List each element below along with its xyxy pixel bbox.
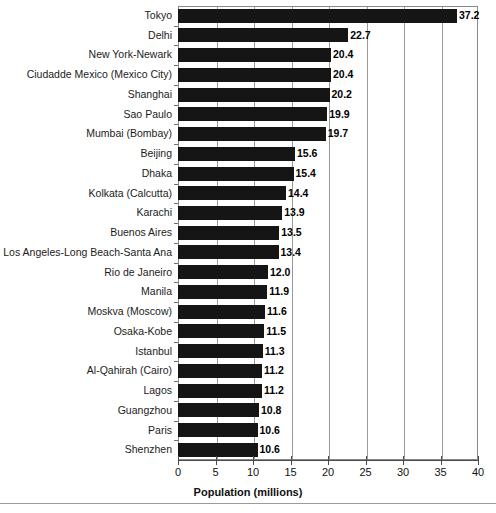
category-label: Manila xyxy=(2,282,174,302)
bar xyxy=(178,9,457,23)
bar xyxy=(178,88,330,102)
bar-value-label: 15.6 xyxy=(297,145,317,162)
bar xyxy=(178,245,279,259)
bar xyxy=(178,384,262,398)
bar-value-label: 20.4 xyxy=(333,66,353,83)
x-axis-tick xyxy=(441,456,442,465)
bar-row: 11.3 xyxy=(178,342,478,362)
x-axis-tick-label: 40 xyxy=(472,466,484,478)
category-label: Sao Paulo xyxy=(2,105,174,125)
footer-divider xyxy=(0,503,496,504)
x-axis-tick xyxy=(178,456,179,465)
bar-value-label: 37.2 xyxy=(459,7,479,24)
category-label: Al-Qahirah (Cairo) xyxy=(2,361,174,381)
category-label: Buenos Aires xyxy=(2,223,174,243)
x-axis-tick-label: 30 xyxy=(397,466,409,478)
bar-row: 37.2 xyxy=(178,6,478,26)
category-label: Lagos xyxy=(2,381,174,401)
x-axis-tick-label: 25 xyxy=(359,466,371,478)
bar xyxy=(178,226,279,240)
bar-row: 10.6 xyxy=(178,421,478,441)
category-label: Istanbul xyxy=(2,342,174,362)
bar xyxy=(178,403,259,417)
bar-row: 15.6 xyxy=(178,144,478,164)
bar-value-label: 13.5 xyxy=(281,224,301,241)
bar-row: 11.2 xyxy=(178,381,478,401)
category-label: Kolkata (Calcutta) xyxy=(2,184,174,204)
bar-row: 11.2 xyxy=(178,361,478,381)
x-axis-tick xyxy=(403,456,404,465)
x-axis-tick xyxy=(328,456,329,465)
x-axis-tick-label: 20 xyxy=(322,466,334,478)
population-bar-chart: TokyoDelhiNew York-NewarkCiudadde Mexico… xyxy=(0,0,496,513)
x-axis-tick-label: 10 xyxy=(247,466,259,478)
bar-value-label: 12.0 xyxy=(270,264,290,281)
bar-row: 19.7 xyxy=(178,124,478,144)
category-label: Moskva (Moscow) xyxy=(2,302,174,322)
bar xyxy=(178,265,268,279)
category-label: Shenzhen xyxy=(2,440,174,460)
bar-value-label: 20.4 xyxy=(333,46,353,63)
category-label: Beijing xyxy=(2,144,174,164)
bar-row: 11.6 xyxy=(178,302,478,322)
category-label: Ciudadde Mexico (Mexico City) xyxy=(2,65,174,85)
category-label: Shanghai xyxy=(2,85,174,105)
bar-row: 13.4 xyxy=(178,243,478,263)
bar-row: 20.4 xyxy=(178,65,478,85)
bar-row: 11.5 xyxy=(178,322,478,342)
category-label: New York-Newark xyxy=(2,45,174,65)
bar-row: 20.4 xyxy=(178,45,478,65)
bar-value-label: 10.8 xyxy=(261,402,281,419)
category-label: Mumbai (Bombay) xyxy=(2,124,174,144)
bar-value-label: 22.7 xyxy=(350,27,370,44)
bar xyxy=(178,186,286,200)
bar xyxy=(178,68,331,82)
bar xyxy=(178,107,327,121)
x-axis-title: Population (millions) xyxy=(0,486,496,498)
bar xyxy=(178,305,265,319)
bar xyxy=(178,364,262,378)
bar xyxy=(178,443,258,457)
category-label: Guangzhou xyxy=(2,401,174,421)
bar-value-label: 11.3 xyxy=(265,343,285,360)
bar-row: 10.8 xyxy=(178,401,478,421)
x-axis-tick xyxy=(291,456,292,465)
bar-row: 20.2 xyxy=(178,85,478,105)
bar-value-label: 11.2 xyxy=(264,382,284,399)
category-label: Paris xyxy=(2,421,174,441)
bar xyxy=(178,285,267,299)
bar-row: 13.9 xyxy=(178,203,478,223)
x-axis-tick xyxy=(366,456,367,465)
category-label: Rio de Janeiro xyxy=(2,263,174,283)
bar-row: 11.9 xyxy=(178,282,478,302)
x-axis-tick-label: 5 xyxy=(212,466,218,478)
category-label: Delhi xyxy=(2,26,174,46)
bar xyxy=(178,344,263,358)
category-label: Dhaka xyxy=(2,164,174,184)
bar-row: 12.0 xyxy=(178,263,478,283)
category-label: Karachi xyxy=(2,203,174,223)
bar xyxy=(178,324,264,338)
bar-value-label: 13.9 xyxy=(284,204,304,221)
x-axis-tick xyxy=(216,456,217,465)
bar-value-label: 19.7 xyxy=(328,125,348,142)
bar-value-label: 11.6 xyxy=(267,303,287,320)
bar xyxy=(178,167,294,181)
bar-row: 22.7 xyxy=(178,26,478,46)
bar-value-label: 10.6 xyxy=(260,441,280,458)
bar xyxy=(178,28,348,42)
bar-value-label: 13.4 xyxy=(281,244,301,261)
bar xyxy=(178,206,282,220)
x-axis-tick xyxy=(478,456,479,465)
bar xyxy=(178,423,258,437)
bar xyxy=(178,147,295,161)
bar-value-label: 10.6 xyxy=(260,422,280,439)
x-axis-tick-label: 35 xyxy=(434,466,446,478)
bar-row: 19.9 xyxy=(178,105,478,125)
bar-value-label: 19.9 xyxy=(329,106,349,123)
category-label: Tokyo xyxy=(2,6,174,26)
bar xyxy=(178,48,331,62)
category-label: Osaka-Kobe xyxy=(2,322,174,342)
bar-row: 15.4 xyxy=(178,164,478,184)
x-axis-tick-label: 0 xyxy=(175,466,181,478)
